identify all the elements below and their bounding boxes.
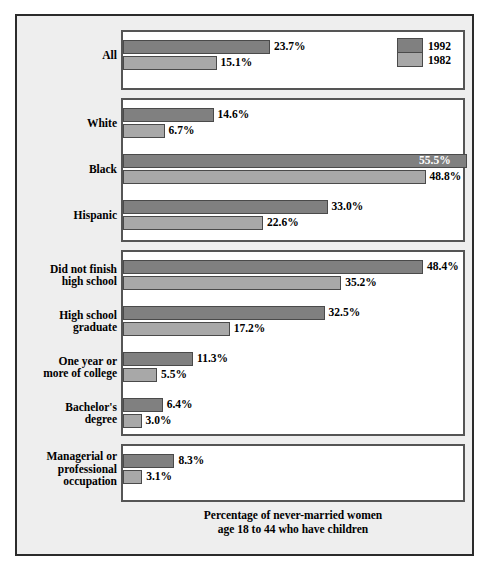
category-label: Bachelor'sdegree xyxy=(19,401,117,426)
category-label-line: Bachelor's xyxy=(19,401,117,413)
bar-group: Hispanic33.0%22.6% xyxy=(123,195,463,237)
bar-group: Managerial orprofessionaloccupation8.3%3… xyxy=(123,449,463,491)
caption-line-1: Percentage of never-married women xyxy=(121,508,465,522)
bar-value-label: 35.2% xyxy=(345,277,377,289)
bar-row: 3.1% xyxy=(123,470,172,484)
category-label-line: occupation xyxy=(19,475,117,487)
category-label-line: One year or xyxy=(19,355,117,367)
category-label: All xyxy=(19,49,117,61)
bar-value-label: 48.4% xyxy=(427,261,459,273)
bar-value-label: 3.1% xyxy=(146,471,172,483)
bar-1992 xyxy=(123,40,270,54)
bar-value-label: 55.5% xyxy=(419,155,451,167)
bar-1982 xyxy=(123,414,142,428)
category-label-line: Black xyxy=(19,163,117,175)
bar-1992 xyxy=(123,108,214,122)
bar-1982 xyxy=(123,56,217,70)
bar-row: 15.1% xyxy=(123,56,252,70)
panel-all: 1992 1982 All23.7%15.1% xyxy=(121,30,465,90)
bar-row: 35.2% xyxy=(123,276,377,290)
bar-group: Bachelor'sdegree6.4%3.0% xyxy=(123,393,463,435)
category-label: One year ormore of college xyxy=(19,355,117,380)
bar-group: All23.7%15.1% xyxy=(123,35,463,77)
bar-row: 23.7% xyxy=(123,40,306,54)
bar-value-label: 15.1% xyxy=(221,57,253,69)
panel-race: White14.6%6.7%Black55.5%48.8%Hispanic33.… xyxy=(121,98,465,242)
bar-value-label: 5.5% xyxy=(161,369,187,381)
category-label: Black xyxy=(19,163,117,175)
bar-row: 5.5% xyxy=(123,368,187,382)
bar-value-label: 17.2% xyxy=(234,323,266,335)
category-label-line: Hispanic xyxy=(19,209,117,221)
bar-1992 xyxy=(123,398,163,412)
bar-group: High schoolgraduate32.5%17.2% xyxy=(123,301,463,343)
bar-group: White14.6%6.7% xyxy=(123,103,463,145)
bar-group: One year ormore of college11.3%5.5% xyxy=(123,347,463,389)
bar-row: 11.3% xyxy=(123,352,228,366)
category-label: Did not finishhigh school xyxy=(19,263,117,288)
bar-value-label: 6.4% xyxy=(167,399,193,411)
bar-1982 xyxy=(123,170,426,184)
bar-1982 xyxy=(123,322,230,336)
chart-figure: 1992 1982 All23.7%15.1% White14.6%6.7%Bl… xyxy=(15,14,474,556)
bar-row: 48.4% xyxy=(123,260,459,274)
bar-row: 3.0% xyxy=(123,414,171,428)
bar-1992 xyxy=(123,260,423,274)
bar-1982 xyxy=(123,216,263,230)
bar-1992 xyxy=(123,454,174,468)
category-label-line: High school xyxy=(19,309,117,321)
bar-row: 6.7% xyxy=(123,124,194,138)
bar-1982 xyxy=(123,276,341,290)
bar-value-label: 32.5% xyxy=(329,307,361,319)
bar-group: Black55.5%48.8% xyxy=(123,149,463,191)
category-label-line: more of college xyxy=(19,367,117,379)
category-label-line: graduate xyxy=(19,321,117,333)
bar-1992 xyxy=(123,306,325,320)
category-label-line: professional xyxy=(19,463,117,475)
bar-1992 xyxy=(123,352,193,366)
category-label: High schoolgraduate xyxy=(19,309,117,334)
category-label-line: degree xyxy=(19,413,117,425)
bar-value-label: 6.7% xyxy=(169,125,195,137)
category-label: White xyxy=(19,117,117,129)
bar-value-label: 33.0% xyxy=(332,201,364,213)
bar-value-label: 14.6% xyxy=(218,109,250,121)
bar-value-label: 22.6% xyxy=(267,217,299,229)
bar-1982 xyxy=(123,124,165,138)
bar-1992 xyxy=(123,200,328,214)
bar-1982 xyxy=(123,470,142,484)
category-label-line: White xyxy=(19,117,117,129)
bar-group: Did not finishhigh school48.4%35.2% xyxy=(123,255,463,297)
bar-value-label: 3.0% xyxy=(146,415,172,427)
bar-value-label: 11.3% xyxy=(197,353,228,365)
panel-education: Did not finishhigh school48.4%35.2%High … xyxy=(121,250,465,436)
bar-1992 xyxy=(123,154,467,168)
bar-1982 xyxy=(123,368,157,382)
category-label-line: All xyxy=(19,49,117,61)
bar-value-label: 8.3% xyxy=(178,455,204,467)
chart-caption: Percentage of never-married women age 18… xyxy=(121,508,465,537)
bar-row: 8.3% xyxy=(123,454,204,468)
bar-row: 22.6% xyxy=(123,216,299,230)
bar-row: 33.0% xyxy=(123,200,363,214)
caption-line-2: age 18 to 44 who have children xyxy=(121,522,465,536)
bar-row: 32.5% xyxy=(123,306,360,320)
category-label-line: Did not finish xyxy=(19,263,117,275)
bar-row: 14.6% xyxy=(123,108,249,122)
bar-value-label: 48.8% xyxy=(430,171,462,183)
bar-row: 55.5% xyxy=(123,154,457,168)
category-label: Hispanic xyxy=(19,209,117,221)
bar-row: 6.4% xyxy=(123,398,193,412)
panel-occupation: Managerial orprofessionaloccupation8.3%3… xyxy=(121,444,465,502)
bar-row: 17.2% xyxy=(123,322,265,336)
bar-value-label: 23.7% xyxy=(274,41,306,53)
category-label-line: high school xyxy=(19,275,117,287)
category-label: Managerial orprofessionaloccupation xyxy=(19,450,117,487)
bar-row: 48.8% xyxy=(123,170,461,184)
category-label-line: Managerial or xyxy=(19,450,117,462)
